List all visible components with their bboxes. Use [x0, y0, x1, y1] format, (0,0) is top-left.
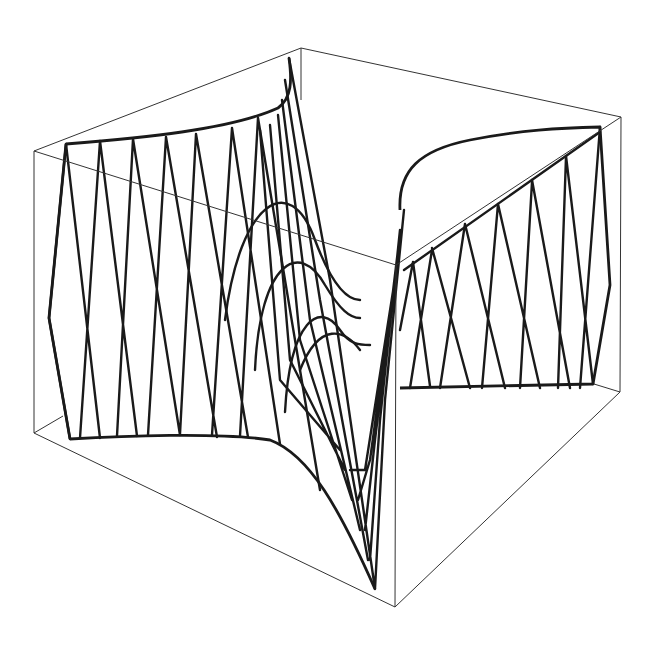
surface-right-flank: [400, 127, 610, 388]
surface-plot: [0, 0, 664, 646]
surface-left-flank: [49, 58, 404, 589]
